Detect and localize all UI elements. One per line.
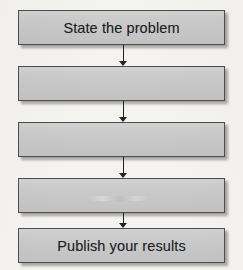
flowchart-node-5[interactable]: Publish your results	[18, 228, 225, 263]
flowchart-node-1-label: State the problem	[63, 20, 179, 36]
flowchart-connector-3	[118, 157, 129, 178]
flowchart-connector-2	[118, 101, 129, 122]
flowchart-node-5-label: Publish your results	[57, 238, 186, 254]
flowchart-node-1[interactable]: State the problem	[18, 10, 225, 45]
scan-artifact	[89, 196, 151, 201]
arrow-line	[123, 45, 125, 61]
arrow-line	[123, 213, 125, 223]
arrow-line	[123, 157, 125, 173]
flowchart-node-2[interactable]	[18, 66, 225, 101]
flowchart: State the problem Publish your results	[0, 0, 243, 270]
flowchart-connector-4	[118, 213, 129, 228]
arrow-line	[123, 101, 125, 117]
flowchart-node-3[interactable]	[18, 122, 225, 157]
flowchart-node-4[interactable]	[18, 178, 225, 213]
flowchart-connector-1	[118, 45, 129, 66]
